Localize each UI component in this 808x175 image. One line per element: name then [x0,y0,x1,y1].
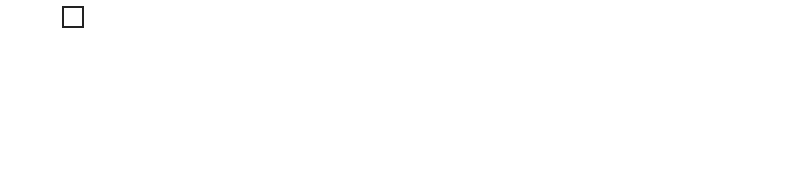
music-staff [0,0,808,175]
